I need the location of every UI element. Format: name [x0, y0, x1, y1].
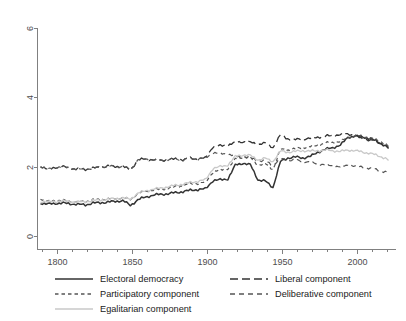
plot-area — [41, 133, 389, 206]
legend-label: Egalitarian component — [100, 304, 192, 314]
legend-label: Liberal component — [275, 274, 351, 284]
y-tick-label: 0 — [25, 234, 35, 239]
series-line-electoral-democracy — [41, 135, 389, 206]
x-tick-label: 1950 — [272, 257, 292, 267]
x-tick-label: 1800 — [47, 257, 67, 267]
series-group — [41, 133, 389, 206]
y-tick-label: 2 — [25, 165, 35, 170]
x-axis-ticks: 18001850190019502000 — [43, 250, 388, 267]
axes-group — [38, 28, 397, 250]
y-tick-label: 6 — [25, 26, 35, 31]
x-tick-label: 1850 — [122, 257, 142, 267]
legend-label: Participatory component — [100, 289, 200, 299]
y-tick-label: 4 — [25, 95, 35, 100]
line-chart-figure: 18001850190019502000 0246 Electoral demo… — [0, 0, 406, 321]
series-line-egalitarian-component — [41, 149, 389, 203]
y-axis-ticks: 0246 — [25, 26, 38, 239]
x-tick-label: 1900 — [197, 257, 217, 267]
x-tick-label: 2000 — [347, 257, 367, 267]
legend-label: Deliberative component — [275, 289, 372, 299]
series-line-deliberative-component — [41, 152, 389, 173]
chart-container: 18001850190019502000 0246 Electoral demo… — [0, 0, 406, 321]
legend-label: Electoral democracy — [100, 274, 184, 284]
chart-legend: Electoral democracyLiberal componentPart… — [55, 274, 372, 314]
